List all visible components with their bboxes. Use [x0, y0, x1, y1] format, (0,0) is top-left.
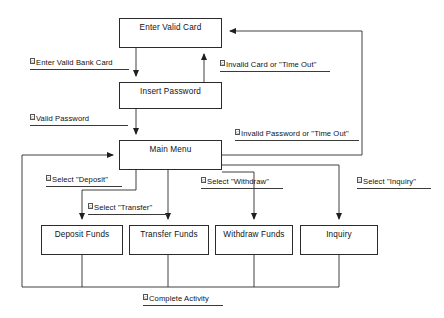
missing-glyph-icon: C	[143, 294, 148, 300]
edge-label-select-inquiry: CSelect "Inquiry"	[357, 177, 431, 189]
edge-label-text: Select "Withdraw"	[207, 177, 269, 186]
node-main-menu[interactable]: Main Menu	[119, 140, 222, 170]
node-label: Withdraw Funds	[223, 230, 284, 239]
node-withdraw-funds[interactable]: Withdraw Funds	[215, 225, 293, 255]
missing-glyph-icon: C	[201, 177, 206, 183]
edge-label-enter-valid-bank-card: CEnter Valid Bank Card	[30, 58, 129, 70]
node-label: Deposit Funds	[55, 230, 110, 239]
node-label: Inquiry	[326, 230, 352, 239]
node-inquiry[interactable]: Inquiry	[300, 225, 378, 255]
wire-main-menu-to-inquiry	[222, 165, 339, 219]
edge-label-select-withdraw: CSelect "Withdraw"	[201, 177, 283, 189]
edge-label-text: Select "Inquiry"	[363, 177, 416, 186]
edge-label-invalid-card-or-time-out: CInvalid Card or "Time Out"	[220, 60, 330, 72]
missing-glyph-icon: C	[357, 177, 362, 183]
state-transition-diagram: Enter Valid Card Insert Password Main Me…	[0, 0, 444, 318]
edge-label-text: Enter Valid Bank Card	[36, 58, 113, 67]
node-label: Insert Password	[140, 87, 201, 96]
edge-label-text: Select "Deposit"	[52, 175, 108, 184]
edge-label-text: Valid Password	[36, 114, 89, 123]
missing-glyph-icon: C	[46, 175, 51, 181]
edge-label-valid-password: CValid Password	[30, 114, 128, 126]
node-deposit-funds[interactable]: Deposit Funds	[41, 225, 123, 255]
missing-glyph-icon: C	[30, 114, 35, 120]
edge-label-text: Invalid Card or "Time Out"	[226, 60, 316, 69]
edge-label-text: Complete Activity	[149, 294, 209, 303]
missing-glyph-icon: C	[30, 58, 35, 64]
edge-label-select-transfer: CSelect "Transfer"	[88, 203, 168, 215]
missing-glyph-icon: C	[235, 129, 240, 135]
node-label: Transfer Funds	[140, 230, 197, 239]
missing-glyph-icon: C	[220, 60, 225, 66]
node-label: Main Menu	[150, 145, 192, 154]
edge-label-invalid-password-or-time-out: CInvalid Password or "Time Out"	[235, 129, 359, 141]
edge-label-complete-activity: CComplete Activity	[143, 294, 223, 306]
edge-label-select-deposit: CSelect "Deposit"	[46, 175, 122, 187]
connector-lines	[0, 0, 444, 318]
node-insert-password[interactable]: Insert Password	[119, 82, 222, 109]
edge-label-text: Select "Transfer"	[94, 203, 152, 212]
missing-glyph-icon: C	[88, 203, 93, 209]
node-enter-valid-card[interactable]: Enter Valid Card	[119, 18, 222, 48]
node-transfer-funds[interactable]: Transfer Funds	[129, 225, 209, 255]
edge-label-text: Invalid Password or "Time Out"	[241, 129, 349, 138]
node-label: Enter Valid Card	[140, 23, 202, 32]
